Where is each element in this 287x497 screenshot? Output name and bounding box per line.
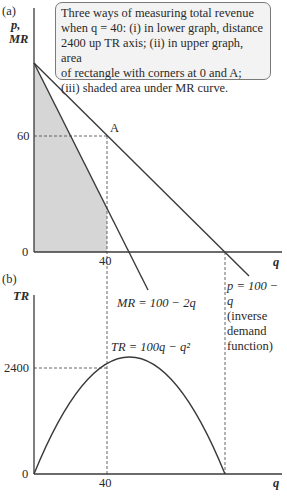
demand-label-line2: (inverse	[227, 309, 287, 324]
lower-y-axis-label: TR	[13, 290, 29, 303]
mr-curve-label: MR = 100 − 2q	[117, 297, 196, 310]
info-line-2: when q = 40: (i) in lower graph, distanc…	[61, 21, 265, 36]
info-line-1: Three ways of measuring total revenue	[61, 6, 265, 21]
lower-x-tick-40: 40	[99, 477, 112, 490]
upper-x-tick-40: 40	[99, 255, 112, 268]
tr-curve	[34, 357, 225, 474]
demand-label-equation: p = 100 − q	[227, 279, 287, 309]
demand-curve-label: p = 100 − q (inverse demand function)	[227, 279, 287, 354]
tr-curve-label: TR = 100q − q²	[111, 341, 190, 354]
info-line-4: of rectangle with corners at 0 and A;	[61, 66, 265, 81]
demand-label-line4: function)	[227, 339, 287, 354]
point-a-label: A	[110, 122, 119, 135]
panel-label-b: (b)	[2, 273, 17, 286]
upper-x-axis-label: q	[273, 256, 279, 269]
lower-x-axis-label: q	[273, 477, 279, 490]
upper-y-axis-label-p: p,	[11, 19, 20, 32]
info-box: Three ways of measuring total revenue wh…	[55, 2, 271, 80]
lower-y-tick-2400: 2400	[4, 362, 29, 375]
upper-y-tick-0: 0	[22, 246, 28, 259]
demand-label-line3: demand	[227, 324, 287, 339]
info-line-3: 2400 up TR axis; (ii) in upper graph, ar…	[61, 36, 265, 66]
upper-y-tick-60: 60	[17, 130, 30, 143]
lower-y-tick-0: 0	[22, 468, 28, 481]
panel-label-a: (a)	[2, 5, 16, 18]
info-line-5: (iii) shaded area under MR curve.	[61, 81, 265, 96]
upper-y-axis-label-mr: MR	[9, 33, 28, 46]
